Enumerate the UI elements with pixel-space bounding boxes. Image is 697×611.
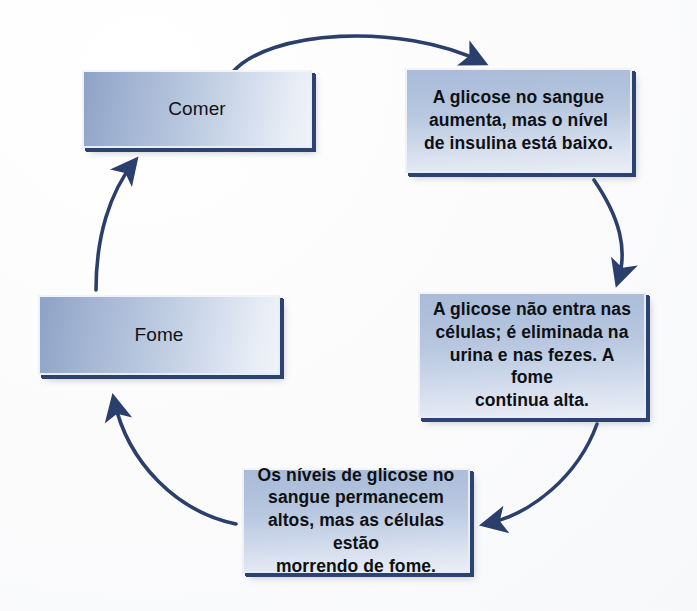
node-niveis-altos[interactable]: Os níveis de glicose no sangue permanece… <box>242 468 470 573</box>
edge-glicose-nao-entra-to-niveis-altos <box>486 424 597 524</box>
node-fome[interactable]: Fome <box>38 295 280 375</box>
diagram-page: Comer A glicose no sangue aumenta, mas o… <box>0 0 697 611</box>
node-glicose-nao-entra[interactable]: A glicose não entra nas células; é elimi… <box>418 292 646 418</box>
node-glicose-nao-entra-label: A glicose não entra nas células; é elimi… <box>420 298 644 412</box>
node-niveis-altos-label: Os níveis de glicose no sangue permanece… <box>244 464 468 578</box>
edge-fome-to-comer <box>96 162 134 290</box>
node-comer-label: Comer <box>158 97 236 122</box>
edge-glicose-aumenta-to-glicose-nao-entra <box>594 180 622 281</box>
node-glicose-aumenta-label: A glicose no sangue aumenta, mas o nível… <box>414 86 623 154</box>
node-fome-label: Fome <box>125 323 194 348</box>
node-glicose-aumenta[interactable]: A glicose no sangue aumenta, mas o nível… <box>405 68 632 173</box>
node-comer[interactable]: Comer <box>82 70 312 148</box>
edge-niveis-altos-to-fome <box>114 400 236 524</box>
